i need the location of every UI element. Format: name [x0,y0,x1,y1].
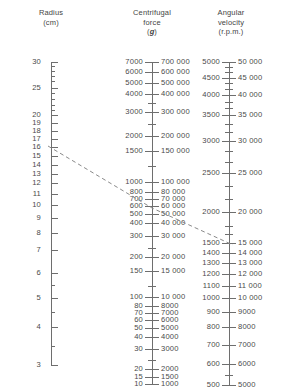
force-tick [152,328,159,329]
force-tick [145,369,152,370]
radius-tick [51,346,55,347]
angular-tick [222,263,229,264]
force-tick [145,271,152,272]
radius-tick-label: 3 [0,361,41,369]
nomogram-figure: Radius (cm) Centrifugal force (g) Angula… [0,0,281,389]
force-tick [152,236,159,237]
angular-tick-label-secondary: 50 000 [238,58,281,66]
force-tick [152,192,159,193]
force-tick [152,124,156,125]
force-tick [152,320,159,321]
angular-tick [229,62,236,63]
angular-tick-label: 1100 [160,282,220,290]
radius-tick [51,218,58,219]
force-tick-label-secondary: 100 000 [161,178,221,186]
force-tick [145,349,152,350]
force-tick [145,62,152,63]
force-tick [152,151,159,152]
force-heading-line1: Centrifugal [107,8,197,18]
force-tick [145,337,152,338]
force-tick [145,313,152,314]
radius-tick-label: 9 [0,214,41,222]
angular-tick [229,375,233,376]
force-tick [152,94,159,95]
angular-tick [229,115,236,116]
angular-tick [229,226,233,227]
force-tick-label: 4000 [83,90,143,98]
force-tick [145,151,152,152]
radius-tick [51,194,58,195]
angular-tick [229,286,236,287]
angular-tick-label: 900 [160,308,220,316]
radius-tick [51,298,58,299]
angular-column-heading: Angular velocity (r.p.m.) [186,8,276,37]
force-tick-label: 1000 [83,178,143,186]
angular-tick-label-secondary: 6000 [238,360,281,368]
force-tick [145,182,152,183]
force-tick [145,199,152,200]
force-tick [152,199,159,200]
force-tick [145,206,152,207]
radius-tick-label: 11 [0,190,41,198]
force-tick [152,248,156,249]
radius-tick [51,71,55,72]
force-tick-label: 5000 [83,79,143,87]
radius-tick [51,110,55,111]
force-tick [152,166,156,167]
angular-tick-label-secondary: 14 000 [238,249,281,257]
radius-tick [51,88,58,89]
radius-tick [51,105,55,106]
angular-tick [222,298,229,299]
radius-tick-label: 30 [0,58,41,66]
angular-tick [229,102,233,103]
force-tick-label: 1500 [83,147,143,155]
radius-heading-line1: Radius [6,8,96,18]
angular-tick-label-secondary: 5000 [238,381,281,389]
force-tick-label-secondary: 40 000 [161,219,221,227]
force-tick [152,257,159,258]
radius-tick [51,165,58,166]
angular-tick [229,151,233,152]
force-tick [145,306,152,307]
angular-tick [222,243,229,244]
angular-heading-line1: Angular [186,8,276,18]
angular-tick [229,173,236,174]
radius-tick-label: 4 [0,323,41,331]
force-tick [152,349,159,350]
force-tick [145,83,152,84]
angular-tick-label-secondary: 30 000 [238,137,281,145]
angular-tick-label: 3000 [160,137,220,145]
angular-tick-label: 4500 [160,74,220,82]
angular-tick [222,115,229,116]
radius-tick [51,250,58,251]
radius-tick [51,183,58,184]
radius-tick [51,123,58,124]
angular-tick [229,95,236,96]
force-tick [152,313,159,314]
angular-tick-label: 4000 [160,91,220,99]
force-heading-line2: force [107,18,197,28]
force-tick [145,297,152,298]
radius-tick [51,312,55,313]
angular-tick [229,312,236,313]
angular-tick [222,274,229,275]
angular-tick-label: 800 [160,323,220,331]
angular-tick [229,274,236,275]
force-tick [152,286,156,287]
force-tick [145,94,152,95]
radius-tick [51,156,58,157]
angular-tick-label-secondary: 10 000 [238,294,281,302]
force-tick [145,192,152,193]
radius-tick-label: 7 [0,246,41,254]
angular-tick-label: 700 [160,341,220,349]
angular-tick-label: 2000 [160,208,220,216]
radius-tick [51,365,58,366]
angular-tick-label: 1000 [160,294,220,302]
force-tick-label: 400 [83,219,143,227]
angular-tick [229,72,233,73]
force-tick [152,297,159,298]
angular-tick-label: 1200 [160,270,220,278]
angular-heading-unit: (r.p.m.) [186,27,276,37]
angular-tick [229,124,233,125]
radius-tick [51,131,58,132]
